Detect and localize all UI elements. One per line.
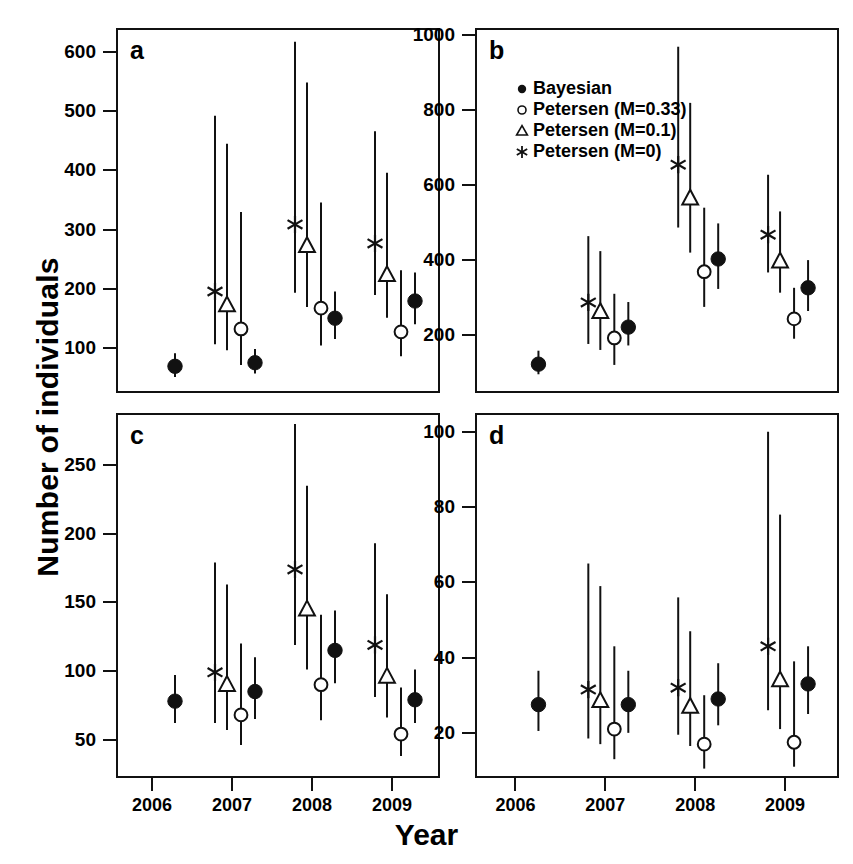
y-tick-mark-b-400 xyxy=(462,259,475,261)
y-tick-label-d-40: 40 xyxy=(365,647,455,669)
y-tick-label-c-100: 100 xyxy=(6,660,96,682)
legend-item-filled-circle: Bayesian xyxy=(511,78,687,99)
y-tick-label-a-400: 400 xyxy=(6,159,96,181)
data-point-d-petersen-m-0--2007 xyxy=(581,564,596,739)
data-point-d-petersen-m-0-33--2007 xyxy=(608,646,621,759)
y-tick-mark-d-40 xyxy=(462,657,475,659)
y-tick-mark-c-100 xyxy=(103,670,116,672)
y-tick-mark-d-80 xyxy=(462,506,475,508)
y-tick-mark-c-250 xyxy=(103,464,116,466)
data-point-a-petersen-m-0-33--2008 xyxy=(315,202,328,345)
data-point-b-bayesian-2007 xyxy=(621,302,635,345)
data-point-c-petersen-m-0-1--2008 xyxy=(299,486,315,670)
open-circle-icon xyxy=(511,100,533,120)
data-point-c-bayesian-2006 xyxy=(168,675,182,723)
data-point-d-bayesian-2007 xyxy=(621,671,635,733)
x-tick-label-c-2006: 2006 xyxy=(107,795,197,816)
legend-item-asterisk: Petersen (M=0) xyxy=(511,141,687,162)
y-tick-label-a-300: 300 xyxy=(6,219,96,241)
data-point-b-petersen-m-0--2007 xyxy=(581,236,596,344)
y-tick-mark-a-200 xyxy=(103,288,116,290)
legend: BayesianPetersen (M=0.33)Petersen (M=0.1… xyxy=(511,78,687,162)
data-point-a-bayesian-2008 xyxy=(328,292,342,339)
data-point-d-petersen-m-0-33--2009 xyxy=(788,661,801,766)
y-tick-label-d-80: 80 xyxy=(365,496,455,518)
data-point-b-petersen-m-0-1--2009 xyxy=(772,211,788,292)
y-tick-mark-a-600 xyxy=(103,51,116,53)
y-tick-mark-b-800 xyxy=(462,109,475,111)
data-point-c-petersen-m-0-33--2008 xyxy=(315,615,328,721)
data-point-d-petersen-m-0-1--2007 xyxy=(592,586,608,744)
x-tick-label-d-2008: 2008 xyxy=(650,795,740,816)
x-tick-mark-c-2006 xyxy=(151,778,153,791)
data-point-d-bayesian-2006 xyxy=(531,671,545,731)
y-tick-mark-c-200 xyxy=(103,533,116,535)
data-point-b-petersen-m-0-33--2008 xyxy=(698,208,711,307)
x-tick-mark-c-2008 xyxy=(311,778,313,791)
y-tick-mark-d-20 xyxy=(462,732,475,734)
data-point-d-petersen-m-0--2009 xyxy=(761,432,776,710)
y-tick-label-c-50: 50 xyxy=(6,729,96,751)
y-tick-label-b-400: 400 xyxy=(365,249,455,271)
y-tick-label-c-250: 250 xyxy=(6,454,96,476)
x-tick-mark-d-2007 xyxy=(604,778,606,791)
y-tick-mark-a-300 xyxy=(103,229,116,231)
x-tick-mark-d-2009 xyxy=(784,778,786,791)
data-point-a-petersen-m-0--2008 xyxy=(288,42,303,293)
panel-d: d xyxy=(475,413,839,778)
y-tick-mark-b-1000 xyxy=(462,34,475,36)
data-point-d-bayesian-2008 xyxy=(711,663,725,725)
y-tick-label-d-100: 100 xyxy=(365,421,455,443)
data-point-a-petersen-m-0-1--2007 xyxy=(219,144,235,351)
x-tick-label-d-2006: 2006 xyxy=(470,795,560,816)
data-point-c-bayesian-2009 xyxy=(408,670,422,724)
data-point-b-bayesian-2009 xyxy=(801,260,815,311)
y-tick-label-a-100: 100 xyxy=(6,337,96,359)
data-point-a-petersen-m-0-1--2008 xyxy=(299,83,315,307)
y-tick-mark-a-100 xyxy=(103,347,116,349)
x-tick-mark-d-2006 xyxy=(514,778,516,791)
x-tick-label-c-2009: 2009 xyxy=(347,795,437,816)
data-point-a-bayesian-2009 xyxy=(408,273,422,325)
data-point-b-petersen-m-0-33--2009 xyxy=(788,288,801,339)
data-point-b-petersen-m-0--2009 xyxy=(761,175,776,273)
asterisk-icon xyxy=(511,142,533,162)
y-tick-mark-b-200 xyxy=(462,334,475,336)
data-point-c-bayesian-2007 xyxy=(248,657,262,719)
y-tick-mark-c-150 xyxy=(103,601,116,603)
x-tick-mark-c-2009 xyxy=(391,778,393,791)
y-tick-label-b-200: 200 xyxy=(365,324,455,346)
x-tick-mark-c-2007 xyxy=(231,778,233,791)
data-point-a-bayesian-2006 xyxy=(168,353,182,377)
y-tick-mark-c-50 xyxy=(103,739,116,741)
data-point-c-petersen-m-0--2009 xyxy=(368,543,383,697)
data-point-d-petersen-m-0-33--2008 xyxy=(698,695,711,768)
figure-root: Number of individuals Year a bBayesianPe… xyxy=(0,0,853,864)
y-tick-label-a-200: 200 xyxy=(6,278,96,300)
y-tick-label-d-20: 20 xyxy=(365,722,455,744)
data-point-c-bayesian-2008 xyxy=(328,611,342,684)
y-tick-mark-a-400 xyxy=(103,169,116,171)
x-tick-label-c-2007: 2007 xyxy=(187,795,277,816)
legend-item-open-circle: Petersen (M=0.33) xyxy=(511,99,687,120)
x-tick-label-c-2008: 2008 xyxy=(267,795,357,816)
legend-label: Petersen (M=0.1) xyxy=(533,120,677,141)
legend-item-open-triangle: Petersen (M=0.1) xyxy=(511,120,687,141)
data-point-b-petersen-m-0-1--2007 xyxy=(592,251,608,350)
data-point-c-petersen-m-0-1--2007 xyxy=(219,585,235,730)
y-tick-label-a-500: 500 xyxy=(6,100,96,122)
data-point-c-petersen-m-0--2007 xyxy=(208,563,223,724)
y-tick-label-b-600: 600 xyxy=(365,174,455,196)
y-tick-label-a-600: 600 xyxy=(6,41,96,63)
data-point-d-bayesian-2009 xyxy=(801,646,815,714)
data-point-d-petersen-m-0--2008 xyxy=(671,597,686,734)
x-axis-label: Year xyxy=(0,818,853,852)
panel-b: bBayesianPetersen (M=0.33)Petersen (M=0.… xyxy=(475,28,839,393)
legend-label: Petersen (M=0) xyxy=(533,141,662,162)
data-point-b-bayesian-2006 xyxy=(531,351,545,375)
y-tick-label-c-200: 200 xyxy=(6,523,96,545)
y-tick-mark-d-60 xyxy=(462,581,475,583)
data-point-d-petersen-m-0-1--2008 xyxy=(682,631,698,746)
data-point-c-petersen-m-0-33--2007 xyxy=(235,644,248,746)
x-tick-label-d-2007: 2007 xyxy=(560,795,650,816)
